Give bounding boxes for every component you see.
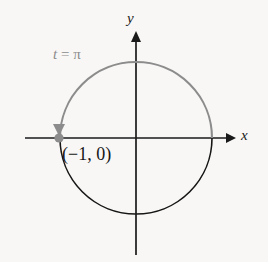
unit-circle-figure: y x t = π (−1, 0)	[0, 0, 268, 262]
terminal-point-dot	[54, 133, 63, 142]
parameter-equals: =	[61, 46, 69, 62]
parameter-annotation-label: t = π	[53, 47, 81, 62]
parameter-variable: t	[53, 46, 57, 62]
y-axis-label: y	[127, 11, 134, 26]
x-axis-arrowhead	[226, 133, 236, 143]
terminal-point-label: (−1, 0)	[62, 145, 111, 163]
y-axis-arrowhead	[131, 31, 141, 42]
plot-canvas	[0, 0, 268, 262]
x-axis-label: x	[241, 128, 248, 143]
parameter-value: π	[73, 46, 81, 62]
